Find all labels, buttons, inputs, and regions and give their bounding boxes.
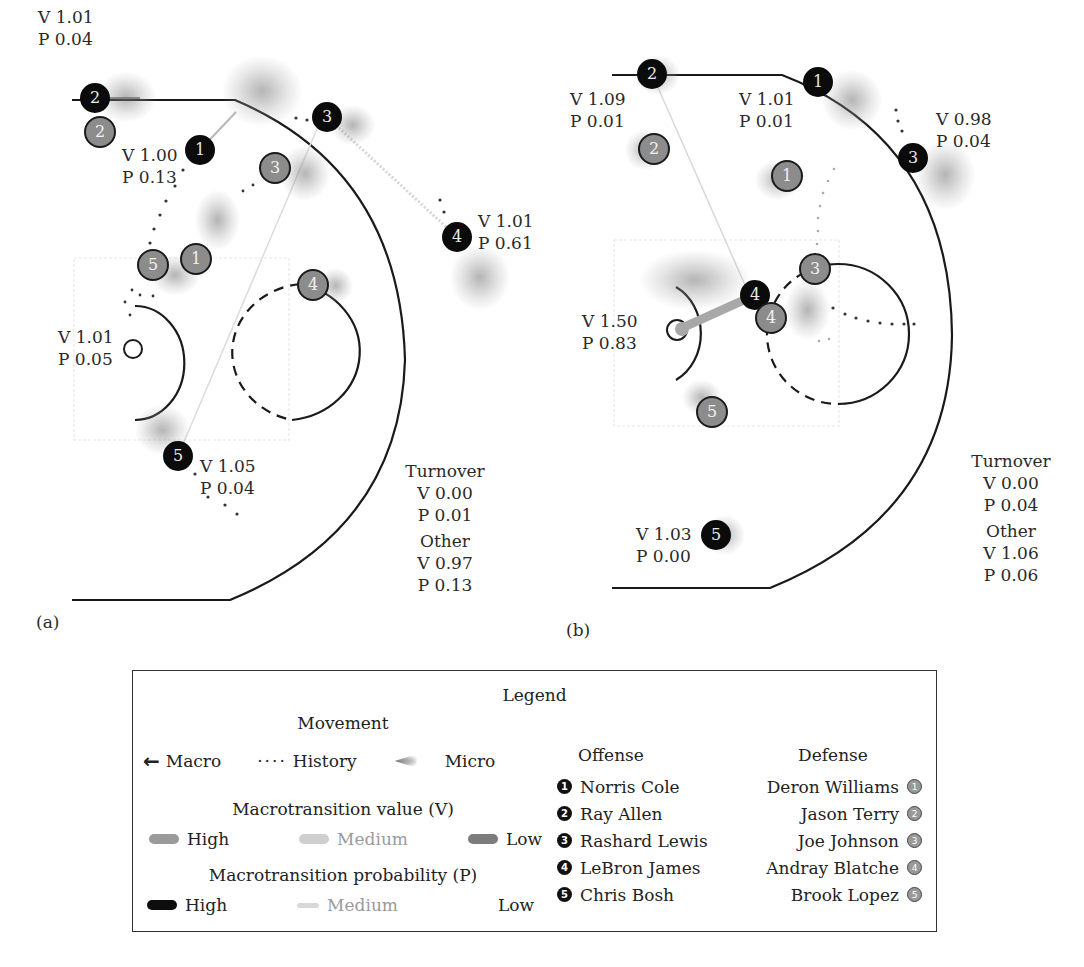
offense-player-2-a: 2 — [80, 83, 110, 113]
panel-tag-b: (b) — [566, 620, 590, 640]
defense-badge-icon: 4 — [907, 860, 922, 875]
defense-title: Defense — [753, 745, 913, 765]
label-off5-a: V 1.05P 0.04 — [200, 455, 256, 499]
label-off3-b: V 0.98P 0.04 — [936, 108, 992, 152]
defense-player-2-a: 2 — [84, 116, 116, 148]
value-low-label: Low — [506, 829, 542, 849]
defense-player-1-b: 1 — [771, 160, 803, 192]
figure: 1 2 3 4 5 1 2 3 4 5 V 1.01P 0.04 V 1.00P… — [0, 0, 1084, 640]
defense-player-4-b: 4 — [755, 302, 787, 334]
prob-low-label: Low — [498, 895, 534, 915]
defense-list: Deron Williams1 Jason Terry2 Joe Johnson… — [766, 773, 922, 908]
value-high-swatch — [149, 834, 179, 844]
value-medium-swatch — [299, 834, 329, 844]
turnover-other-b: Turnover V 0.00 P 0.04 Other V 1.06 P 0.… — [966, 450, 1056, 586]
arrow-left-icon: ← — [143, 749, 160, 773]
offense-item: 2Ray Allen — [557, 800, 708, 827]
offense-item: 3Rashard Lewis — [557, 827, 708, 854]
movement-row: ← Macro ···· History Micro — [143, 749, 495, 773]
offense-item: 5Chris Bosh — [557, 881, 708, 908]
offense-list: 1Norris Cole 2Ray Allen 3Rashard Lewis 4… — [557, 773, 708, 908]
prob-high-label: High — [185, 895, 227, 915]
prob-medium-label: Medium — [327, 895, 398, 915]
turnover-other-a: Turnover V 0.00 P 0.01 Other V 0.97 P 0.… — [405, 460, 485, 596]
movement-history-label: History — [293, 751, 357, 771]
defense-badge-icon: 2 — [907, 806, 922, 821]
value-title: Macrotransition value (V) — [193, 799, 493, 819]
offense-badge-icon: 3 — [557, 833, 572, 848]
offense-player-1-b: 1 — [803, 67, 833, 97]
movement-micro-label: Micro — [445, 751, 496, 771]
defense-badge-icon: 5 — [907, 887, 922, 902]
defense-player-2-b: 2 — [638, 133, 670, 165]
offense-player-5-a: 5 — [163, 441, 193, 471]
defense-badge-icon: 1 — [907, 779, 922, 794]
offense-player-3-a: 3 — [312, 102, 342, 132]
offense-player-3-b: 3 — [898, 143, 928, 173]
court-lines — [0, 0, 1084, 640]
offense-badge-icon: 4 — [557, 860, 572, 875]
offense-player-2-b: 2 — [637, 59, 667, 89]
defense-player-3-a: 3 — [259, 152, 291, 184]
value-high-label: High — [187, 829, 229, 849]
prob-high-swatch — [147, 900, 177, 910]
value-row: High Medium Low — [149, 829, 542, 849]
defense-player-4-a: 4 — [297, 269, 329, 301]
prob-medium-swatch — [297, 903, 319, 908]
legend-title: Legend — [133, 685, 936, 705]
defense-item: Andray Blatche4 — [766, 854, 922, 881]
offense-badge-icon: 5 — [557, 887, 572, 902]
offense-badge-icon: 1 — [557, 779, 572, 794]
defense-player-3-b: 3 — [799, 253, 831, 285]
defense-player-5-b: 5 — [696, 396, 728, 428]
legend: Legend Movement ← Macro ···· History Mic… — [132, 670, 937, 932]
defense-item: Joe Johnson3 — [766, 827, 922, 854]
movement-title: Movement — [293, 713, 393, 733]
label-off4-a: V 1.01P 0.61 — [478, 210, 534, 254]
defense-player-1-a: 1 — [180, 243, 212, 275]
offense-badge-icon: 2 — [557, 806, 572, 821]
dotted-line-icon: ···· — [257, 751, 287, 771]
micro-cone-icon — [395, 754, 417, 768]
value-medium-label: Medium — [337, 829, 408, 849]
label-off2-b: V 1.09P 0.01 — [570, 88, 626, 132]
movement-macro-label: Macro — [166, 751, 221, 771]
defense-item: Deron Williams1 — [766, 773, 922, 800]
offense-player-4-a: 4 — [442, 222, 472, 252]
defense-badge-icon: 3 — [907, 833, 922, 848]
offense-player-5-b: 5 — [701, 520, 731, 550]
label-off5-b: V 1.03P 0.00 — [636, 523, 692, 567]
defense-player-5-a: 5 — [137, 249, 169, 281]
label-off2-a: V 1.01P 0.04 — [38, 6, 94, 50]
label-off1-b: V 1.01P 0.01 — [739, 88, 795, 132]
label-off4-b: V 1.50P 0.83 — [582, 310, 638, 354]
defense-item: Brook Lopez5 — [766, 881, 922, 908]
offense-item: 1Norris Cole — [557, 773, 708, 800]
label-basket-a: V 1.01P 0.05 — [58, 326, 114, 370]
label-off1-a: V 1.00P 0.13 — [122, 144, 178, 188]
history-dots-b — [831, 108, 915, 325]
probability-row: High Medium Low — [147, 895, 534, 915]
offense-player-1-a: 1 — [185, 135, 215, 165]
value-low-swatch — [468, 834, 498, 844]
offense-title: Offense — [551, 745, 671, 765]
defense-item: Jason Terry2 — [766, 800, 922, 827]
probability-title: Macrotransition probability (P) — [173, 865, 513, 885]
panel-tag-a: (a) — [36, 612, 59, 632]
offense-item: 4LeBron James — [557, 854, 708, 881]
